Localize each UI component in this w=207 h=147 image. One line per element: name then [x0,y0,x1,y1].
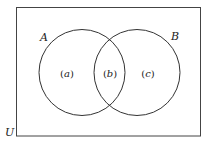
svg-text:(a): (a) [60,68,74,79]
svg-text:(c): (c) [141,68,155,79]
region-c-label: (c) [141,68,155,79]
set-b-label: B [170,30,179,43]
set-a-label: A [39,31,48,44]
universe-label: U [5,126,15,139]
svg-text:(b): (b) [103,68,117,79]
region-b-label: (b) [103,68,117,79]
region-a-label: (a) [60,68,74,79]
venn-diagram: A B U (a) (b) (c) [0,0,207,147]
